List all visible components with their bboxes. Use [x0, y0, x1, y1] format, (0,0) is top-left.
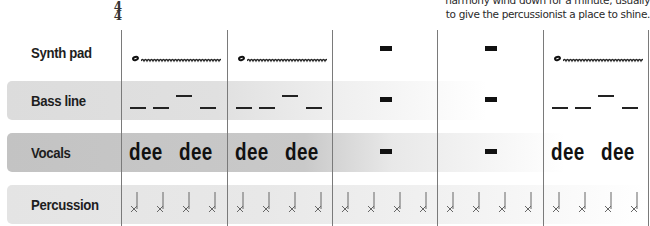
time-signature-bottom: 4: [113, 12, 123, 21]
bass-note-dash: [130, 107, 146, 109]
caption-text: harmony wind down for a minute, usually …: [434, 0, 650, 21]
bass-note-dash: [236, 107, 252, 109]
vocal-syllable: dee: [235, 139, 269, 165]
percussion-x-note-icon: [207, 190, 217, 216]
bass-note-dash: [259, 107, 275, 109]
barline: [121, 30, 122, 226]
percussion-x-note-icon: [313, 190, 323, 216]
percussion-x-note-icon: [603, 190, 613, 216]
whole-rest-icon: [380, 97, 392, 102]
bass-note-dash: [282, 95, 298, 97]
percussion-x-note-icon: [629, 190, 639, 216]
barline: [648, 30, 649, 226]
percussion-x-note-icon: [551, 190, 561, 216]
percussion-x-note-icon: [577, 190, 587, 216]
whole-rest-icon: [485, 97, 497, 102]
percussion-x-note-icon: [181, 190, 191, 216]
whole-rest-icon: [380, 149, 392, 154]
percussion-x-note-icon: [471, 190, 481, 216]
vocal-syllable: dee: [179, 139, 213, 165]
percussion-x-note-icon: [445, 190, 455, 216]
bass-note-dash: [622, 107, 638, 109]
bass-note-dash: [176, 95, 192, 97]
whole-rest-icon: [380, 46, 392, 51]
caption-line-2: to give the percussionist a place to shi…: [434, 7, 650, 21]
bass-note-dash: [306, 107, 322, 109]
whole-note-trill-icon: [554, 49, 643, 68]
vocal-syllable: dee: [129, 139, 163, 165]
percussion-x-note-icon: [235, 190, 245, 216]
caption-line-1: harmony wind down for a minute, usually: [434, 0, 650, 7]
percussion-x-note-icon: [366, 190, 376, 216]
bass-note-dash: [153, 107, 169, 109]
percussion-x-note-icon: [497, 190, 507, 216]
time-signature: 4 4: [113, 3, 123, 21]
vocal-syllable: dee: [601, 139, 635, 165]
track-label-vocals: Vocals: [31, 133, 110, 172]
percussion-x-note-icon: [287, 190, 297, 216]
percussion-x-note-icon: [392, 190, 402, 216]
track-label-percussion: Percussion: [31, 185, 110, 224]
percussion-x-note-icon: [155, 190, 165, 216]
track-label-bass-line: Bass line: [31, 81, 110, 120]
barline: [543, 30, 544, 226]
percussion-x-note-icon: [418, 190, 428, 216]
percussion-x-note-icon: [261, 190, 271, 216]
bass-note-dash: [200, 107, 216, 109]
trill-wave-icon: [563, 49, 643, 68]
bass-note-dash: [552, 107, 568, 109]
whole-rest-icon: [485, 149, 497, 154]
whole-note-icon: [131, 55, 139, 62]
bass-note-dash: [575, 107, 591, 109]
percussion-x-note-icon: [340, 190, 350, 216]
barline: [332, 30, 333, 226]
trill-wave-icon: [247, 49, 327, 68]
vocal-syllable: dee: [551, 139, 585, 165]
whole-note-icon: [237, 55, 245, 62]
whole-note-icon: [553, 55, 561, 62]
whole-rest-icon: [485, 46, 497, 51]
percussion-x-note-icon: [523, 190, 533, 216]
vocal-syllable: dee: [285, 139, 319, 165]
trill-wave-icon: [141, 49, 221, 68]
bass-note-dash: [598, 95, 614, 97]
whole-note-trill-icon: [238, 49, 327, 68]
track-label-synth-pad: Synth pad: [31, 33, 110, 72]
whole-note-trill-icon: [132, 49, 221, 68]
barline: [437, 30, 438, 226]
percussion-x-note-icon: [129, 190, 139, 216]
barline: [227, 30, 228, 226]
